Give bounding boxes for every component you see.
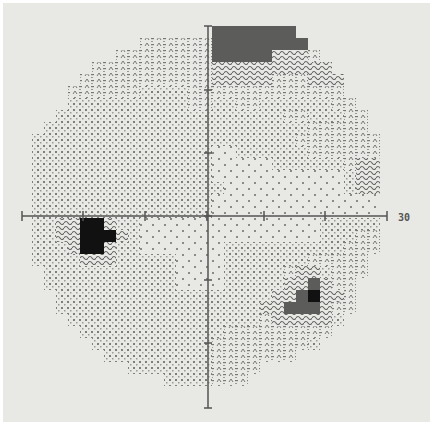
field-cell xyxy=(260,74,272,86)
field-cell xyxy=(284,194,296,206)
field-cell xyxy=(116,326,128,338)
field-cell xyxy=(236,338,248,350)
field-cell xyxy=(284,158,296,170)
field-cell xyxy=(140,326,152,338)
field-cell xyxy=(92,314,104,326)
field-cell xyxy=(116,278,128,290)
field-cell xyxy=(200,146,212,158)
field-cell xyxy=(116,314,128,326)
field-cell xyxy=(176,86,188,98)
field-cell xyxy=(200,326,212,338)
field-cell xyxy=(56,194,68,206)
field-cell xyxy=(272,50,284,62)
field-cell xyxy=(344,98,356,110)
field-cell xyxy=(332,254,344,266)
field-cell xyxy=(248,50,260,62)
field-cell xyxy=(296,194,308,206)
field-cell xyxy=(248,74,260,86)
field-cell xyxy=(188,326,200,338)
field-cell xyxy=(152,350,164,362)
field-cell xyxy=(116,290,128,302)
field-cell xyxy=(68,182,80,194)
field-cell xyxy=(272,86,284,98)
field-cell xyxy=(152,158,164,170)
field-cell xyxy=(200,302,212,314)
field-cell xyxy=(308,182,320,194)
field-cell xyxy=(152,266,164,278)
field-cell xyxy=(248,242,260,254)
field-cell xyxy=(368,194,380,206)
field-cell xyxy=(140,98,152,110)
field-cell xyxy=(260,182,272,194)
field-cell xyxy=(272,158,284,170)
field-cell xyxy=(200,314,212,326)
field-cell xyxy=(332,134,344,146)
field-cell xyxy=(332,230,344,242)
field-cell xyxy=(272,302,284,314)
field-cell xyxy=(140,314,152,326)
field-cell xyxy=(92,338,104,350)
field-cell xyxy=(116,62,128,74)
field-cell xyxy=(80,122,92,134)
field-cell xyxy=(164,98,176,110)
field-cell xyxy=(308,314,320,326)
field-cell xyxy=(224,278,236,290)
field-cell xyxy=(116,338,128,350)
field-cell xyxy=(272,218,284,230)
field-cell xyxy=(140,338,152,350)
field-cell xyxy=(260,158,272,170)
field-cell xyxy=(116,146,128,158)
field-cell xyxy=(164,326,176,338)
field-cell xyxy=(44,278,56,290)
field-cell xyxy=(224,302,236,314)
field-cell xyxy=(116,302,128,314)
field-cell xyxy=(284,74,296,86)
field-cell xyxy=(128,266,140,278)
field-cell xyxy=(320,254,332,266)
field-cell xyxy=(212,326,224,338)
field-cell xyxy=(92,110,104,122)
field-cell xyxy=(248,326,260,338)
field-cell xyxy=(224,314,236,326)
field-cell xyxy=(284,134,296,146)
field-cell xyxy=(308,266,320,278)
field-cell xyxy=(80,326,92,338)
field-cell xyxy=(236,302,248,314)
field-cell xyxy=(272,110,284,122)
field-cell xyxy=(140,218,152,230)
field-cell xyxy=(104,134,116,146)
field-cell xyxy=(272,326,284,338)
field-cell xyxy=(236,74,248,86)
field-cell xyxy=(200,194,212,206)
field-cell xyxy=(272,26,284,38)
field-cell xyxy=(272,194,284,206)
field-cell xyxy=(44,266,56,278)
field-cell xyxy=(212,182,224,194)
field-cell xyxy=(152,242,164,254)
field-cell xyxy=(32,254,44,266)
field-cell xyxy=(308,278,320,290)
field-cell xyxy=(116,86,128,98)
field-cell xyxy=(236,98,248,110)
field-cell xyxy=(200,254,212,266)
field-cell xyxy=(260,290,272,302)
field-cell xyxy=(152,290,164,302)
field-cell xyxy=(152,50,164,62)
field-cell xyxy=(128,338,140,350)
field-cell xyxy=(308,170,320,182)
field-cell xyxy=(260,134,272,146)
field-cell xyxy=(260,230,272,242)
field-cell xyxy=(296,230,308,242)
field-cell xyxy=(164,374,176,386)
field-cell xyxy=(308,326,320,338)
field-cell xyxy=(140,290,152,302)
field-cell xyxy=(320,98,332,110)
field-cell xyxy=(344,290,356,302)
field-cell xyxy=(92,194,104,206)
field-cell xyxy=(212,62,224,74)
field-cell xyxy=(128,182,140,194)
field-cell xyxy=(140,182,152,194)
field-cell xyxy=(236,62,248,74)
field-cell xyxy=(128,146,140,158)
field-cell xyxy=(176,170,188,182)
